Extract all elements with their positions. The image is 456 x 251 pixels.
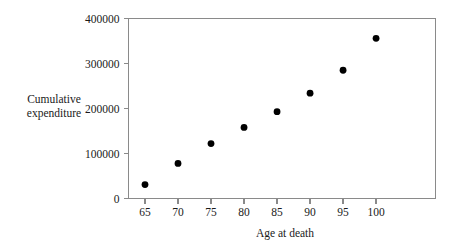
x-tick-label: 75 [205, 206, 217, 218]
scatter-chart-figure: Cumulative expenditure Age at death 0100… [0, 0, 456, 251]
plot-frame [129, 19, 436, 199]
x-tick-label: 70 [172, 206, 184, 218]
plot-area: 0100000200000300000400000 65707580859095… [0, 0, 456, 251]
x-tick-label: 80 [238, 206, 250, 218]
data-point [175, 160, 182, 167]
x-tick-label: 65 [139, 206, 151, 218]
x-tick-label: 85 [271, 206, 283, 218]
data-point [208, 140, 215, 147]
data-point-group [142, 35, 380, 188]
y-tick-label: 300000 [85, 58, 120, 70]
x-tick-label: 100 [367, 206, 385, 218]
data-point [241, 124, 248, 131]
y-tick-label: 0 [114, 193, 120, 205]
data-point [340, 67, 347, 74]
y-tick-label: 400000 [85, 13, 120, 25]
x-tick-label: 95 [337, 206, 349, 218]
data-point [142, 181, 149, 188]
y-tick-label: 100000 [85, 148, 120, 160]
data-point [373, 35, 380, 42]
y-tick-label: 200000 [85, 103, 120, 115]
x-axis-ticks: 65707580859095100 [139, 199, 385, 218]
data-point [307, 90, 314, 97]
x-tick-label: 90 [304, 206, 316, 218]
y-axis-ticks: 0100000200000300000400000 [85, 13, 129, 205]
data-point [274, 108, 281, 115]
